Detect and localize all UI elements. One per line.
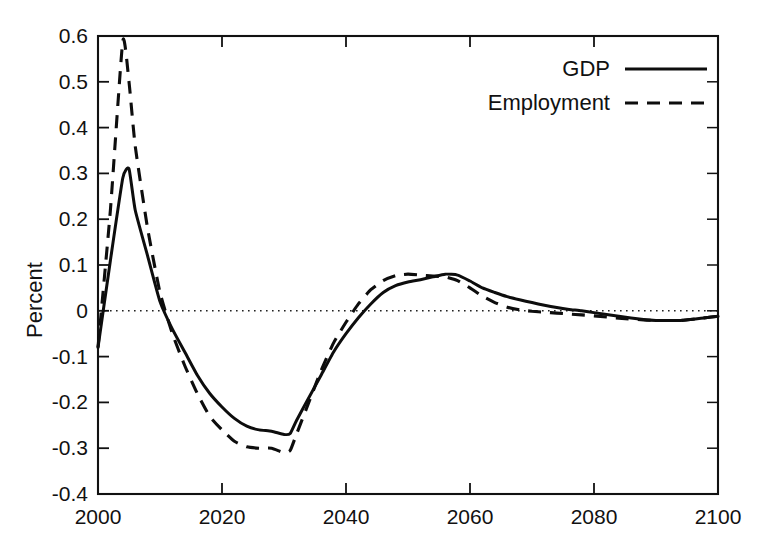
- x-axis-tick-label: 2060: [447, 505, 494, 528]
- x-axis-tick-labels: 200020202040206020802100: [75, 505, 742, 528]
- y-axis-tick-label: 0.4: [59, 116, 89, 139]
- x-axis-tick-label: 2040: [323, 505, 370, 528]
- legend-label-gdp: GDP: [562, 56, 610, 81]
- y-axis-tick-label: 0.3: [59, 161, 88, 184]
- y-axis-tick-label: -0.1: [52, 345, 88, 368]
- x-axis-tick-label: 2000: [75, 505, 122, 528]
- y-axis-tick-label: 0.5: [59, 70, 88, 93]
- plot-area-border: [98, 36, 718, 494]
- y-axis-ticks: [98, 82, 718, 448]
- y-axis-tick-labels: -0.4-0.3-0.2-0.100.10.20.30.40.50.6: [52, 24, 89, 505]
- legend-label-employment: Employment: [488, 90, 610, 115]
- y-axis-tick-label: -0.2: [52, 390, 88, 413]
- chart-legend: GDP Employment: [488, 56, 707, 115]
- y-axis-tick-label: 0.1: [59, 253, 88, 276]
- y-axis-tick-label: 0: [76, 299, 88, 322]
- series-line-gdp: [98, 168, 718, 435]
- series-line-employment: [98, 39, 718, 453]
- x-axis-tick-label: 2080: [571, 505, 618, 528]
- y-axis-tick-label: -0.3: [52, 436, 88, 459]
- x-axis-tick-label: 2020: [199, 505, 246, 528]
- y-axis-title: Percent: [22, 262, 47, 338]
- x-axis-tick-label: 2100: [695, 505, 742, 528]
- chart-figure: -0.4-0.3-0.2-0.100.10.20.30.40.50.6 2000…: [0, 0, 768, 550]
- y-axis-tick-label: 0.6: [59, 24, 88, 47]
- line-chart: -0.4-0.3-0.2-0.100.10.20.30.40.50.6 2000…: [0, 0, 768, 550]
- y-axis-tick-label: -0.4: [52, 482, 89, 505]
- y-axis-tick-label: 0.2: [59, 207, 88, 230]
